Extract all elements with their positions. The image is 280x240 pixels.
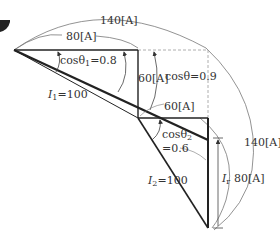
label-Ir: Ir xyxy=(221,172,230,186)
label-60A-horizontal: 60[A] xyxy=(164,100,195,113)
label-cos-theta: cosθ=0.9 xyxy=(165,70,217,83)
label-I1: I1=100 xyxy=(47,88,88,102)
angle-theta-arc-left xyxy=(118,52,126,92)
label-80A-right: 80[A] xyxy=(234,172,265,185)
label-cos-theta2-value: =0.6 xyxy=(162,142,189,155)
angle-theta2-arc xyxy=(152,120,160,140)
label-I2: I2=100 xyxy=(147,174,188,188)
corner-mark xyxy=(0,20,10,32)
arc-80-top-right xyxy=(96,36,138,48)
phasor-diagram: 140[A] 80[A] cosθ1=0.8 I1=100 60[A] cosθ… xyxy=(0,0,280,240)
label-140A-right: 140[A] xyxy=(244,136,280,149)
arc-80-top xyxy=(14,35,62,50)
label-140A-top: 140[A] xyxy=(100,14,138,27)
label-cos-theta1: cosθ1=0.8 xyxy=(60,54,117,68)
label-80A-top: 80[A] xyxy=(66,30,97,43)
label-60A-reactive: 60[A] xyxy=(138,72,169,85)
